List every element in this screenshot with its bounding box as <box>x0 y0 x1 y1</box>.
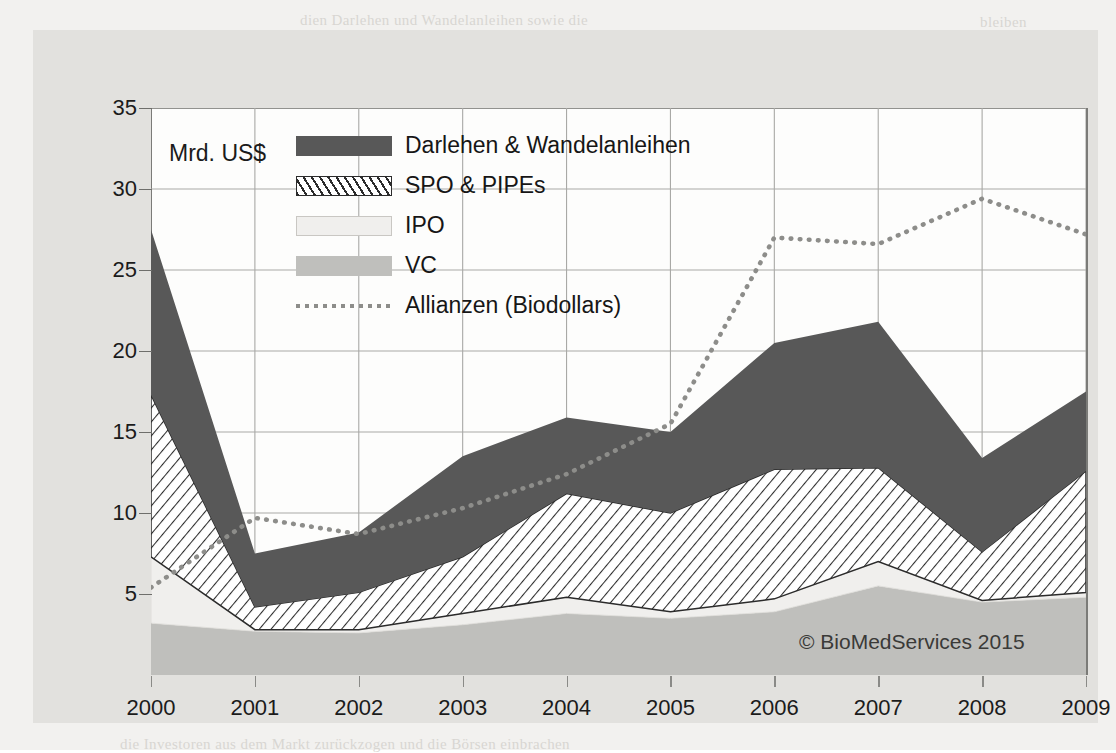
y-tick-mark <box>139 432 152 433</box>
x-tick-label: 2008 <box>958 695 1007 721</box>
x-tick-mark <box>1086 676 1087 687</box>
legend-item-allianzen: Allianzen (Biodollars) <box>296 292 691 319</box>
y-tick-mark <box>139 351 152 352</box>
y-tick-mark <box>139 108 152 109</box>
x-tick-label: 2002 <box>334 695 383 721</box>
legend-label: Darlehen & Wandelanleihen <box>405 132 691 159</box>
y-tick-mark <box>139 594 152 595</box>
copyright-notice: © BioMedServices 2015 <box>799 630 1025 654</box>
x-tick-label: 2009 <box>1062 695 1111 721</box>
y-tick-label: 25 <box>77 257 137 283</box>
x-tick-label: 2007 <box>854 695 903 721</box>
x-tick-mark <box>878 676 879 687</box>
legend-label: VC <box>405 252 437 279</box>
light-fill-swatch <box>296 216 392 236</box>
x-tick-label: 2005 <box>646 695 695 721</box>
x-tick-label: 2004 <box>542 695 591 721</box>
y-axis-unit-label: Mrd. US$ <box>169 140 266 167</box>
y-tick-label: 30 <box>77 176 137 202</box>
x-tick-label: 2006 <box>750 695 799 721</box>
showthrough-line: dien Darlehen und Wandelanleihen sowie d… <box>300 12 588 29</box>
x-tick-label: 2000 <box>127 695 176 721</box>
legend-item-ipo: IPO <box>296 212 691 239</box>
legend-label: Allianzen (Biodollars) <box>405 292 621 319</box>
gray-fill-swatch <box>296 256 392 276</box>
x-tick-mark <box>463 676 464 687</box>
dotted-line-swatch <box>296 296 392 316</box>
dark-fill-swatch <box>296 136 392 156</box>
y-axis-tick-labels: 3530252015105 <box>75 30 137 723</box>
chart-panel: 3530252015105 20002001200220032004200520… <box>33 30 1098 723</box>
x-tick-label: 2003 <box>438 695 487 721</box>
x-tick-mark <box>359 676 360 687</box>
x-tick-mark <box>151 676 152 687</box>
y-tick-label: 20 <box>77 338 137 364</box>
y-tick-label: 15 <box>77 419 137 445</box>
legend-label: SPO & PIPEs <box>405 172 546 199</box>
y-tick-label: 5 <box>77 581 137 607</box>
legend-item-spo-pipes: SPO & PIPEs <box>296 172 691 199</box>
x-tick-mark <box>670 676 671 687</box>
x-tick-mark <box>255 676 256 687</box>
y-tick-label: 10 <box>77 500 137 526</box>
y-tick-mark <box>139 270 152 271</box>
hatched-fill-swatch <box>296 176 392 196</box>
showthrough-line: bleiben <box>980 14 1027 31</box>
x-tick-mark <box>774 676 775 687</box>
y-tick-label: 35 <box>77 95 137 121</box>
y-tick-mark <box>139 189 152 190</box>
x-tick-label: 2001 <box>230 695 279 721</box>
chart-legend: Darlehen & Wandelanleihen SPO & PIPEs IP… <box>296 132 691 319</box>
x-tick-mark <box>567 676 568 687</box>
legend-item-darlehen: Darlehen & Wandelanleihen <box>296 132 691 159</box>
legend-label: IPO <box>405 212 445 239</box>
y-tick-mark <box>139 513 152 514</box>
x-tick-mark <box>982 676 983 687</box>
legend-item-vc: VC <box>296 252 691 279</box>
showthrough-line: die Investoren aus dem Markt zurückzogen… <box>120 736 570 753</box>
